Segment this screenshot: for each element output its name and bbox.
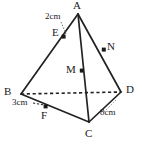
measurement-label-bf: 3cm — [12, 98, 28, 107]
point-marker-n — [102, 48, 106, 52]
point-marker-e — [62, 35, 66, 39]
point-label-f: F — [41, 110, 47, 121]
geometry-figure: A B C D E N M F 2cm 3cm 8cm — [0, 0, 142, 147]
point-marker-m — [80, 69, 84, 73]
vertex-label-b: B — [4, 86, 11, 97]
point-marker-f — [44, 104, 48, 108]
point-label-m: M — [66, 64, 76, 75]
point-label-e: E — [52, 27, 59, 38]
vertex-label-c: C — [85, 128, 92, 139]
edge-b-c — [21, 94, 89, 122]
vertex-label-d: D — [126, 84, 134, 95]
edge-b-d — [21, 92, 121, 94]
vertex-label-a: A — [73, 0, 81, 11]
measurement-label-ae: 2cm — [45, 12, 61, 21]
point-label-n: N — [107, 41, 115, 52]
edge-a-b — [21, 14, 78, 94]
measurement-label-cd: 8cm — [100, 108, 116, 117]
